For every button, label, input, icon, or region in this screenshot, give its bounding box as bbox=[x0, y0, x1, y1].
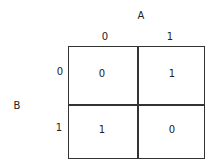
row-header-0: 0 bbox=[50, 66, 70, 78]
column-variable-label: A bbox=[131, 10, 151, 22]
cell-b1-a1: 0 bbox=[162, 124, 182, 135]
grid-divider-vertical bbox=[137, 47, 139, 158]
cell-b0-a1: 1 bbox=[162, 68, 182, 79]
cell-b1-a0: 1 bbox=[92, 124, 112, 135]
column-header-1: 1 bbox=[160, 31, 180, 43]
grid-divider-horizontal bbox=[69, 104, 204, 106]
row-header-1: 1 bbox=[49, 122, 69, 134]
kmap-grid: 0 1 1 0 bbox=[68, 46, 205, 159]
cell-b0-a0: 0 bbox=[92, 68, 112, 79]
row-variable-label: B bbox=[7, 100, 27, 112]
column-header-0: 0 bbox=[95, 31, 115, 43]
